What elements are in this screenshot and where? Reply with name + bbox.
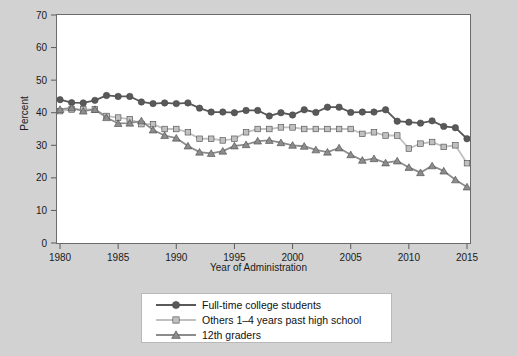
data-point: [185, 100, 191, 106]
y-tick-label: 70: [36, 10, 48, 21]
data-point: [347, 151, 355, 158]
x-axis-title: Year of Administration: [0, 262, 517, 273]
data-point: [371, 129, 377, 135]
data-point: [255, 126, 261, 132]
data-point: [418, 141, 424, 147]
y-tick-label: 0: [41, 238, 47, 249]
legend-label: Others 1–4 years past high school: [202, 314, 361, 326]
data-point: [289, 112, 295, 118]
legend-label: Full-time college students: [202, 299, 321, 311]
data-point: [161, 100, 167, 106]
data-point: [325, 126, 331, 132]
data-point: [115, 93, 121, 99]
data-point: [290, 125, 296, 131]
data-point: [313, 126, 319, 132]
circle-marker: [154, 298, 198, 312]
data-point: [464, 136, 470, 142]
data-point: [336, 104, 342, 110]
data-point: [278, 125, 284, 131]
data-point: [453, 142, 459, 148]
data-point: [57, 96, 63, 102]
legend-label: 12th graders: [202, 329, 261, 341]
data-point: [417, 120, 423, 126]
y-tick-label: 10: [36, 205, 48, 216]
data-point: [231, 110, 237, 116]
data-point: [220, 138, 226, 144]
data-point: [429, 139, 435, 145]
data-point: [383, 133, 389, 139]
data-point: [243, 107, 249, 113]
data-point: [243, 129, 249, 135]
y-tick-label: 60: [36, 42, 48, 53]
chart-legend: Full-time college studentsOthers 1–4 yea…: [141, 293, 392, 343]
data-point: [394, 133, 400, 139]
data-point: [348, 109, 354, 115]
data-point: [103, 92, 109, 98]
data-point: [441, 123, 447, 129]
y-tick-label: 20: [36, 172, 48, 183]
plot-area: [56, 14, 471, 244]
data-point: [394, 118, 400, 124]
data-point: [301, 126, 307, 132]
x-axis-ticks: 19801985199019952000200520102015: [49, 244, 479, 263]
data-point: [452, 124, 458, 130]
data-point: [464, 160, 470, 166]
data-point: [197, 136, 203, 142]
data-point: [278, 110, 284, 116]
data-point: [336, 126, 342, 132]
data-point: [150, 100, 156, 106]
data-point: [441, 144, 447, 150]
data-point: [360, 131, 366, 137]
data-point: [232, 136, 238, 142]
data-point: [406, 119, 412, 125]
chart-figure: Percent 010203040506070 1980198519901995…: [0, 0, 517, 356]
data-point: [301, 107, 307, 113]
data-point: [266, 113, 272, 119]
series-canvas: [57, 15, 470, 243]
data-point: [173, 100, 179, 106]
y-tick-label: 30: [36, 140, 48, 151]
data-point: [196, 105, 202, 111]
data-point: [359, 109, 365, 115]
data-point: [406, 146, 412, 152]
data-point: [162, 126, 168, 132]
data-point: [208, 109, 214, 115]
data-point: [80, 100, 86, 106]
data-point: [220, 109, 226, 115]
y-tick-label: 40: [36, 107, 48, 118]
data-point: [313, 109, 319, 115]
y-axis-ticks: 010203040506070: [36, 10, 56, 249]
series-2: [57, 107, 470, 166]
triangle-marker: [154, 328, 198, 342]
data-point: [173, 126, 179, 132]
data-point: [348, 126, 354, 132]
data-point: [254, 107, 260, 113]
data-point: [127, 93, 133, 99]
data-point: [92, 97, 98, 103]
data-point: [428, 162, 436, 169]
data-point: [138, 99, 144, 105]
data-point: [208, 136, 214, 142]
legend-item: Others 1–4 years past high school: [154, 312, 391, 327]
data-point: [405, 164, 413, 171]
data-point: [267, 126, 273, 132]
y-tick-label: 50: [36, 75, 48, 86]
legend-item: 12th graders: [154, 327, 391, 342]
data-point: [335, 144, 343, 151]
data-point: [382, 107, 388, 113]
data-point: [185, 129, 191, 135]
legend-item: Full-time college students: [154, 297, 391, 312]
data-point: [371, 109, 377, 115]
data-point: [429, 118, 435, 124]
square-marker: [154, 313, 198, 327]
data-point: [324, 104, 330, 110]
